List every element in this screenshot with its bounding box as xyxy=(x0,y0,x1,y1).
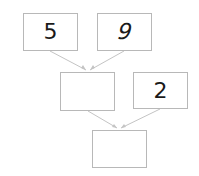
arrowhead-icon xyxy=(90,65,95,70)
arrowhead-icon xyxy=(81,65,86,70)
arrow-top-left-to-middle-left xyxy=(50,51,86,70)
box-top-left: 5 xyxy=(23,13,78,51)
arrowhead-icon xyxy=(121,124,126,128)
box-value: 5 xyxy=(44,21,58,43)
arrowhead-icon xyxy=(112,124,117,128)
arrow-middle-left-to-bottom xyxy=(88,111,117,128)
arrow-top-right-to-middle-left xyxy=(90,51,124,70)
box-bottom-answer[interactable] xyxy=(92,130,147,168)
box-value: 9 xyxy=(116,21,132,43)
arrow-middle-right-to-bottom xyxy=(121,109,160,128)
box-middle-right: 2 xyxy=(133,72,188,109)
box-top-right: 9 xyxy=(97,13,152,51)
box-middle-left-answer[interactable] xyxy=(60,72,115,111)
box-value: 2 xyxy=(154,80,168,102)
